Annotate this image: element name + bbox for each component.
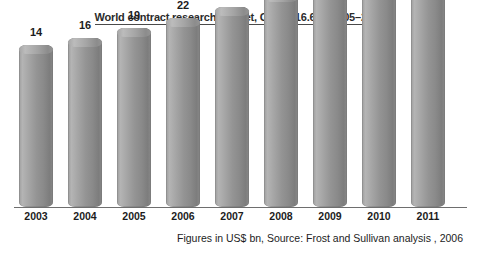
x-tick-2008: 2008 — [257, 210, 305, 222]
bar-2010[interactable] — [362, 0, 396, 207]
bar-2003[interactable] — [19, 45, 53, 207]
bar-2011[interactable] — [411, 0, 445, 207]
bar-value-label: 14 — [19, 26, 53, 38]
x-tick-2007: 2007 — [208, 210, 256, 222]
x-tick-2004: 2004 — [61, 210, 109, 222]
plot-area: 14 16 19 22 25 29 34 40 — [0, 0, 482, 253]
bar-2007[interactable] — [215, 7, 249, 207]
x-tick-2009: 2009 — [306, 210, 354, 222]
x-tick-2006: 2006 — [159, 210, 207, 222]
bar-2008[interactable] — [264, 0, 298, 207]
bar-value-label: 22 — [166, 0, 200, 11]
x-axis-tick-labels: 2003 2004 2005 2006 2007 2008 2009 2010 … — [0, 210, 482, 226]
chart-source-footnote: Figures in US$ bn, Source: Frost and Sul… — [177, 232, 463, 244]
x-tick-2010: 2010 — [355, 210, 403, 222]
bar-value-label: 16 — [68, 19, 102, 31]
bar-chart-figure: World contract research market, GAGR 16.… — [0, 0, 482, 253]
x-axis-line — [14, 207, 467, 208]
x-tick-2003: 2003 — [12, 210, 60, 222]
bar-2006[interactable] — [166, 18, 200, 207]
bar-2004[interactable] — [68, 38, 102, 207]
bar-value-label: 19 — [117, 9, 151, 21]
bar-2005[interactable] — [117, 28, 151, 207]
bar-2009[interactable] — [313, 0, 347, 207]
x-tick-2011: 2011 — [404, 210, 452, 222]
x-tick-2005: 2005 — [110, 210, 158, 222]
